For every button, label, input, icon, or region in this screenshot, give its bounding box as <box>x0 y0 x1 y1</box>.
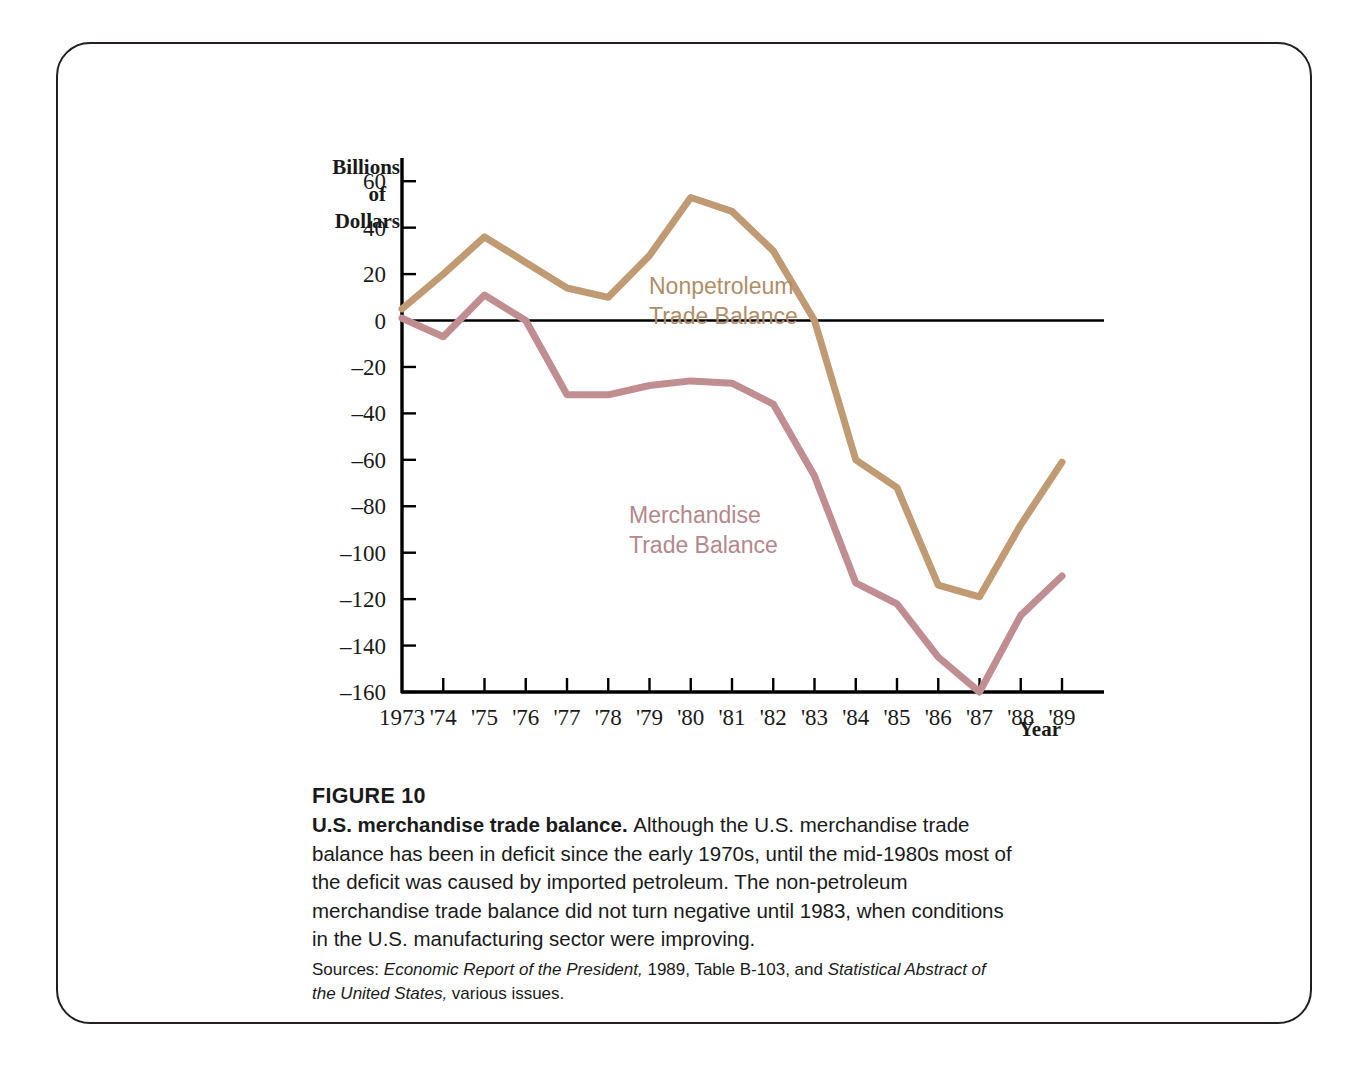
y-axis-tick-labels: 6040200–20–40–60–80–100–120–140–160 <box>339 169 386 705</box>
sources-prefix: Sources: <box>312 960 384 979</box>
x-tick-label: '81 <box>718 705 745 730</box>
sources-middle: 1989, Table B-103, and <box>643 960 828 979</box>
x-tick-label: '87 <box>966 705 993 730</box>
x-tick-label: '76 <box>512 705 539 730</box>
y-tick-label: –140 <box>339 634 386 659</box>
caption-body: U.S. merchandise trade balance.Although … <box>312 811 1012 954</box>
series-label-nonpetroleum-line-2: Trade Balance <box>649 303 798 329</box>
x-tick-label: '78 <box>595 705 622 730</box>
x-tick-label: '77 <box>553 705 580 730</box>
y-tick-label: –80 <box>351 494 387 519</box>
caption-sources: Sources: Economic Report of the Presiden… <box>312 958 1012 1007</box>
chart-plot-area: Billions of Dollars 6040200–20–40–60–80–… <box>58 44 1314 784</box>
series-label-merchandise: Merchandise Trade Balance <box>629 502 778 558</box>
x-tick-label: '74 <box>430 705 458 730</box>
y-tick-label: –120 <box>339 587 386 612</box>
y-tick-label: 0 <box>375 309 387 334</box>
x-tick-label: '86 <box>925 705 952 730</box>
series-label-merchandise-line-1: Merchandise <box>629 502 761 528</box>
y-tick-label: 60 <box>363 169 386 194</box>
x-axis-title: Year <box>1019 717 1061 741</box>
series-label-nonpetroleum-line-1: Nonpetroleum <box>649 273 793 299</box>
y-axis-ticks <box>402 181 416 692</box>
series-label-nonpetroleum: Nonpetroleum Trade Balance <box>649 273 798 329</box>
series-label-merchandise-line-2: Trade Balance <box>629 532 778 558</box>
x-tick-label: '79 <box>636 705 663 730</box>
y-tick-label: –100 <box>339 541 386 566</box>
caption-lead-title: U.S. merchandise trade balance. <box>312 813 633 836</box>
x-tick-label: '80 <box>677 705 704 730</box>
x-tick-label: '85 <box>883 705 910 730</box>
figure-caption: FIGURE 10 U.S. merchandise trade balance… <box>312 784 1012 1007</box>
figure-number: FIGURE 10 <box>312 784 1012 809</box>
x-tick-label: '82 <box>760 705 787 730</box>
y-tick-label: 40 <box>363 216 386 241</box>
y-tick-label: –160 <box>339 680 386 705</box>
x-axis-tick-labels: 1973'74'75'76'77'78'79'80'81'82'83'84'85… <box>379 705 1076 730</box>
sources-title-1: Economic Report of the President, <box>384 960 643 979</box>
x-tick-label: '83 <box>801 705 828 730</box>
y-tick-label: –20 <box>351 355 387 380</box>
sources-tail: various issues. <box>447 984 564 1003</box>
y-tick-label: 20 <box>363 262 386 287</box>
figure-card: Billions of Dollars 6040200–20–40–60–80–… <box>56 42 1312 1024</box>
series-line-merchandise <box>402 295 1062 692</box>
y-tick-label: –60 <box>351 448 387 473</box>
y-tick-label: –40 <box>351 401 387 426</box>
x-tick-label: 1973 <box>379 705 425 730</box>
trade-balance-line-chart: Billions of Dollars 6040200–20–40–60–80–… <box>58 44 1314 784</box>
x-tick-label: '75 <box>471 705 498 730</box>
x-tick-label: '84 <box>842 705 870 730</box>
